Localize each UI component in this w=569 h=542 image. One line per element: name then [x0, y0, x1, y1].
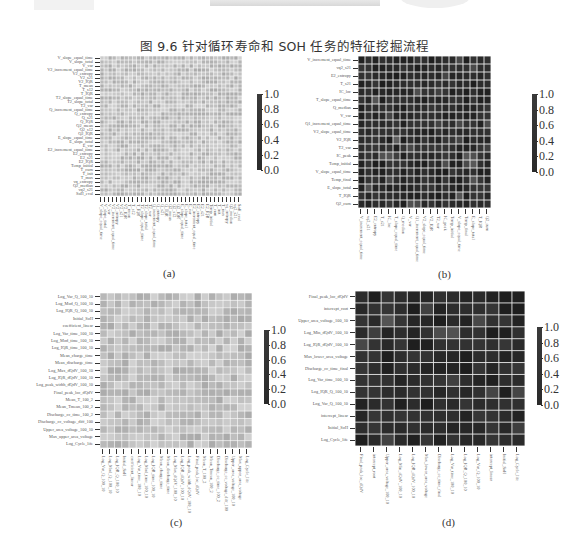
heatmap-d	[355, 291, 525, 446]
y-tick-label: V2_IQR	[336, 138, 358, 142]
colorbar-tick: 0.8	[539, 104, 554, 116]
colorbar-tick: 0.2	[271, 383, 286, 395]
figure-title: 图 9.6 针对循环寿命和 SOH 任务的特征挖掘流程	[0, 36, 569, 55]
colorbar-tick: 0.6	[264, 118, 279, 130]
x-tick-label: coefficient_linear	[130, 449, 135, 486]
x-tick-label: E2_entropy	[373, 209, 378, 236]
x-tick-label: Log_Var_time_100_10	[137, 449, 142, 496]
y-tick-label: Log_Var_Q_100_10	[313, 402, 355, 406]
x-tick-label: Final_peak_loc_dQdV	[195, 449, 200, 495]
x-tick-label: Log_Var_Q_100_10	[476, 447, 481, 489]
y-tick-label: intercept_linear	[321, 414, 355, 418]
x-tick-label: Temp_initial	[450, 209, 455, 238]
y-tick-label: SoH_eval	[76, 192, 100, 196]
y-tick-label: IC_peak	[336, 154, 358, 158]
x-axis-labels: Log_Var_Q_100_10Log_Mod_Q_100_10Log_IQR_…	[100, 449, 252, 514]
y-tick-label: V_increment_equal_time	[307, 58, 358, 62]
x-axis-labels: V_increment_equal_timevq2_s21E2_entropyT…	[358, 209, 491, 269]
y-tick-label: Discharge_cc_time_100_2	[47, 413, 100, 417]
colorbar-tick: 1.0	[539, 88, 554, 100]
colorbar-tick: 1.0	[264, 88, 279, 100]
x-tick-label: Temp_final	[464, 209, 469, 236]
y-tick-label: Log_peak_width_dQdV_100_10	[36, 383, 100, 387]
heatmap-c	[100, 293, 252, 448]
x-tick-label: Max_lower_area_voltage	[424, 447, 429, 498]
y-tick-label: E_slope_total	[327, 186, 358, 190]
y-tick-label: Q2_curn	[336, 202, 358, 206]
y-tick-label: V_var	[340, 114, 358, 118]
y-tick-label: Log_Min_dQdV_100_10	[304, 331, 355, 335]
x-tick-label: V2_slope_equal_time	[422, 209, 427, 254]
colorbar-tick: 0.2	[539, 150, 554, 162]
heatmap-b	[358, 56, 491, 208]
x-tick-label: Mean_Tmean_100_2	[209, 449, 214, 493]
x-tick-label: Max_upper_area_voltage	[238, 449, 243, 500]
x-tick-label: Log_Min_dQdV_100_10	[398, 447, 403, 498]
x-tick-label: Mean_discharge_time	[166, 449, 171, 494]
y-tick-label: T_s21	[340, 82, 358, 86]
x-tick-label: Discharge_cc_voltage_diff_100	[224, 449, 229, 511]
caption-a: (a)	[163, 267, 175, 279]
colorbar-tick: 0.0	[539, 166, 554, 178]
y-tick-label: Discharge_cc_time_final	[305, 367, 355, 371]
colorbar-tick: 0.8	[264, 103, 279, 115]
colorbar-tick: 0.8	[544, 337, 559, 349]
x-tick-label: Upper_area_voltage_100_10	[385, 447, 390, 504]
x-tick-label: Q2_curn	[485, 209, 490, 231]
x-tick-label: Q1_increment_equal_time	[415, 209, 420, 262]
y-tick-label: intercept_root	[324, 307, 355, 311]
x-tick-label: T_slope_equal_time	[394, 209, 399, 251]
colorbar-tick: 1.0	[544, 321, 559, 333]
x-tick-label: Log_peak_width_dQdV_100_10	[187, 449, 192, 513]
y-tick-label: Log_IQR_Q_100_10	[56, 309, 100, 313]
x-tick-label: intercept_root	[372, 447, 377, 478]
x-tick-label: SoH_eval	[237, 197, 242, 221]
y-tick-label: E2_entropy	[331, 74, 358, 78]
y-tick-label: Log_Var_Q_100_10	[58, 295, 100, 299]
x-tick-label: Log_Mod_time_100_10	[144, 449, 149, 498]
x-tick-label: Q_median	[401, 209, 406, 234]
x-tick-label: Mean_T_100_2	[202, 449, 207, 483]
y-axis-labels: V_slope_equal_timeV_slope_totalV_varV2_i…	[0, 56, 100, 196]
y-tick-label: Initial_SoH	[328, 426, 355, 430]
y-tick-label: Log_IQR_Q_100_10	[311, 390, 355, 394]
heatmap-a	[100, 56, 242, 196]
y-tick-label: Temp_final	[331, 178, 358, 182]
y-tick-label: Final_peak_loc_dQdV	[54, 391, 100, 395]
colorbar-tick: 0.6	[544, 352, 559, 364]
x-tick-label: V2_IQR	[429, 209, 434, 231]
top-decoration	[0, 0, 569, 14]
x-tick-label: V_slope_equal_time	[457, 209, 462, 252]
x-tick-label: Discharge_cc_time_100_2	[216, 449, 221, 502]
y-tick-label: Log_IQR_time_100_10	[52, 346, 100, 350]
x-tick-label: Log_Mod_Q_100_10	[108, 449, 113, 493]
y-tick-label: vq2_s21	[336, 66, 358, 70]
x-tick-label: Log_Max_dQdV_100_10	[173, 449, 178, 501]
x-tick-label: IC_peak	[443, 209, 448, 231]
x-tick-label: vq2_s21	[366, 209, 371, 231]
colorbar-tick: 0.4	[544, 368, 559, 380]
colorbar-tick: 0.2	[544, 383, 559, 395]
colorbar-tick: 1.0	[271, 324, 286, 336]
y-tick-label: Temp_initial	[329, 162, 358, 166]
y-tick-label: Log_Var_time_100_10	[308, 378, 355, 382]
y-tick-label: Final_peak_loc_dQdV	[309, 295, 355, 299]
x-tick-label: Log_IQR_time_100_10	[151, 449, 156, 497]
colorbar-tick: 0.4	[271, 368, 286, 380]
y-tick-label: T_slope_equal_time	[316, 98, 358, 102]
y-tick-label: Mean_T_100_2	[66, 398, 100, 402]
x-axis-labels: V_slope_equal_timeV_slope_totalV_varV2_i…	[100, 197, 242, 267]
caption-d: (d)	[442, 516, 455, 528]
y-tick-label: Upper_area_voltage_100_10	[43, 428, 100, 432]
colorbar-tick: 0.8	[271, 339, 286, 351]
x-tick-label: T_s21	[380, 209, 385, 227]
y-tick-label: T_IQR	[339, 194, 358, 198]
colorbar-tick: 0.0	[264, 164, 279, 176]
x-tick-label: Log_IQR_dQdV_100_10	[180, 449, 185, 500]
caption-b: (b)	[438, 268, 451, 280]
y-tick-label: Mean_Tmean_100_2	[56, 405, 100, 409]
x-tick-label: T_IQR	[478, 209, 483, 228]
y-axis-labels: Final_peak_loc_dQdVintercept_rootUpper_a…	[290, 291, 355, 446]
y-axis-labels: Log_Var_Q_100_10Log_Mod_Q_100_10Log_IQR_…	[0, 293, 100, 448]
x-tick-label: intercept_linear	[489, 447, 494, 481]
